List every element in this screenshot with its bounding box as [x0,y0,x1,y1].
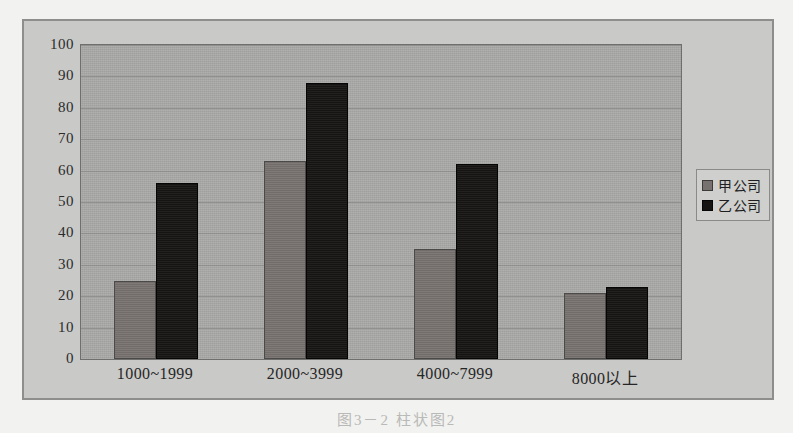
y-axis-tick-label: 0 [66,350,74,367]
y-axis-tick-label: 80 [58,98,74,115]
x-axis: 1000~19992000~39994000~79998000以上 [80,365,682,393]
gridline [81,45,681,46]
y-axis: 0102030405060708090100 [30,44,74,360]
y-axis-tick-label: 50 [58,193,74,210]
x-axis-tick-label: 2000~3999 [267,365,343,383]
x-axis-tick-label: 8000以上 [572,365,638,389]
x-axis-tick-label: 4000~7999 [417,365,493,383]
gridline [81,139,681,140]
y-axis-tick-label: 10 [58,318,74,335]
chart-legend: 甲公司乙公司 [696,169,770,221]
bar-series-b [606,287,648,359]
bar-series-a [114,281,156,360]
bar-series-b [156,183,198,359]
legend-item-label: 甲公司 [718,175,762,195]
legend-item: 乙公司 [702,195,763,215]
y-axis-tick-label: 100 [50,36,74,53]
gridline [81,76,681,77]
bar-series-a [414,249,456,359]
legend-item: 甲公司 [702,175,763,195]
series-b-swatch-icon [702,200,713,211]
bar-series-a [564,293,606,359]
plot-area [80,44,682,360]
y-axis-tick-label: 70 [58,130,74,147]
x-axis-tick-label: 1000~1999 [117,365,193,383]
bar-series-a [264,161,306,359]
y-axis-tick-label: 20 [58,287,74,304]
bar-series-b [456,164,498,359]
legend-item-label: 乙公司 [718,195,762,215]
y-axis-tick-label: 40 [58,224,74,241]
gridline [81,108,681,109]
y-axis-tick-label: 60 [58,161,74,178]
figure-caption: 图3－2 柱状图2 [0,408,793,433]
bar-series-b [306,83,348,359]
y-axis-tick-label: 90 [58,67,74,84]
gridline [81,171,681,172]
y-axis-tick-label: 30 [58,255,74,272]
series-a-swatch-icon [702,180,713,191]
figure-frame: 0102030405060708090100 1000~19992000~399… [22,19,774,400]
